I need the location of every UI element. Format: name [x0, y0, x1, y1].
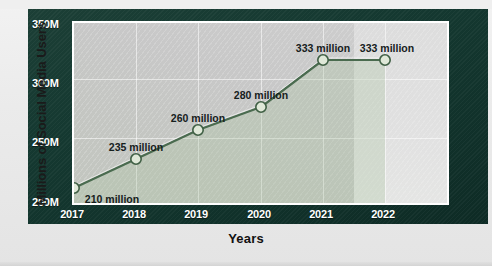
data-label-2018: 235 million	[109, 141, 163, 153]
data-point-2018	[131, 154, 141, 164]
data-point-2021	[318, 55, 328, 65]
x-tick-label-2019: 2019	[184, 208, 208, 220]
data-label-2021: 333 million	[296, 42, 350, 54]
area-under-line	[74, 60, 385, 203]
data-point-2019	[193, 125, 203, 135]
x-tick-label-2017: 2017	[60, 208, 84, 220]
data-point-2022	[380, 55, 390, 65]
data-label-2019: 260 million	[171, 112, 225, 124]
data-point-2020	[256, 102, 266, 112]
x-tick-label-2022: 2022	[371, 208, 395, 220]
chart-screenshot: 350M 300M 250M 200M 2017 2018 2019 2020 …	[0, 0, 492, 266]
bottom-background-band	[0, 262, 492, 266]
x-axis-title: Years	[0, 231, 492, 246]
data-label-2022: 333 million	[360, 42, 414, 54]
data-point-2017	[74, 183, 79, 193]
x-tick-label-2018: 2018	[122, 208, 146, 220]
y-axis-title: Millions of Social Media Users	[34, 26, 49, 206]
x-tick-label-2020: 2020	[247, 208, 271, 220]
x-tick-label-2021: 2021	[309, 208, 333, 220]
data-label-2020: 280 million	[234, 89, 288, 101]
top-background-band	[0, 0, 492, 9]
data-label-2017: 210 million	[85, 193, 139, 205]
plot-area: 210 million 235 million 260 million 280 …	[72, 21, 449, 205]
